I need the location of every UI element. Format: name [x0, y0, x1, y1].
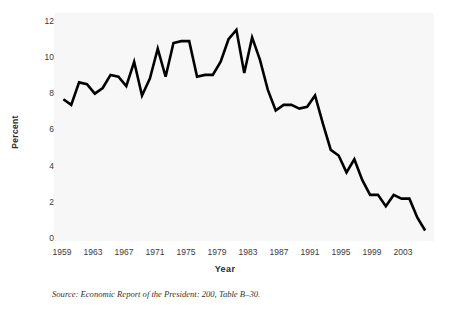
- chart-figure: Percent Year 12 10 8 6 4 2 0 1959 1963 1…: [0, 0, 451, 315]
- plot-background: [54, 13, 434, 241]
- plot-area-wrapper: Percent Year 12 10 8 6 4 2 0 1959 1963 1…: [0, 0, 451, 315]
- line-chart-canvas: [0, 0, 451, 315]
- source-note: Source: Economic Report of the President…: [52, 289, 260, 299]
